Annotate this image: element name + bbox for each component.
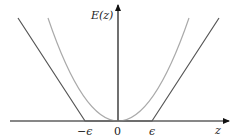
- diagram-canvas: E(z) z −ϵ 0 ϵ: [0, 0, 235, 140]
- x-axis-label: z: [215, 125, 221, 136]
- plot-svg: [0, 0, 235, 140]
- tick-epsilon: ϵ: [149, 126, 155, 137]
- tick-zero: 0: [114, 126, 121, 137]
- y-axis-label: E(z): [91, 10, 113, 21]
- tick-neg-epsilon: −ϵ: [77, 126, 92, 137]
